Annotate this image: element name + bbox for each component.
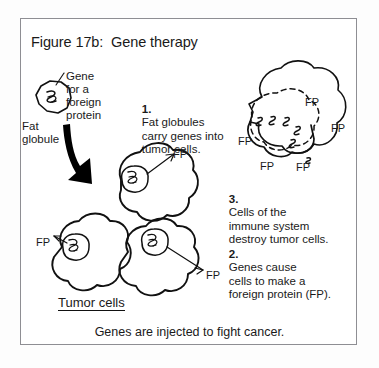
fp-tumor-right: FP: [206, 269, 220, 281]
step-1-number: 1.: [142, 103, 152, 115]
gene-for-foreign-protein-label: Gene for a foreign protein: [66, 70, 101, 122]
step-2: 2. Genes cause cells to make a foreign p…: [216, 235, 331, 314]
gene-therapy-figure: Figure 17b: Gene therapy Gene for a fore…: [0, 0, 379, 368]
fp-immune-br: FP: [296, 161, 310, 173]
step-3-number: 3.: [229, 193, 239, 205]
step-2-number: 2.: [229, 248, 239, 260]
fp-tumor-left: FP: [36, 236, 50, 248]
fp-immune-left: FP: [238, 135, 252, 147]
fp-tumor-top: FP: [173, 148, 187, 160]
step-2-text: Genes cause cells to make a foreign prot…: [229, 261, 331, 301]
fp-immune-top: FP: [305, 96, 319, 108]
fat-globule-label: Fat globule: [22, 120, 59, 146]
fp-immune-right: FP: [331, 122, 345, 134]
figure-title: Figure 17b: Gene therapy: [31, 35, 198, 50]
tumor-cells-label: Tumor cells: [58, 296, 125, 311]
figure-caption: Genes are injected to fight cancer.: [0, 326, 379, 339]
fp-immune-bl: FP: [260, 160, 274, 172]
